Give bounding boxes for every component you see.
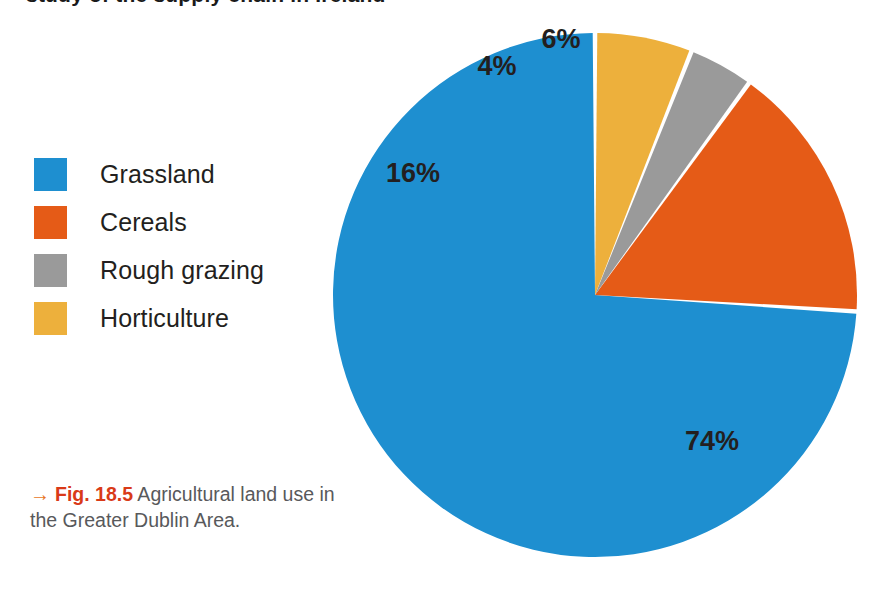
legend-swatch-rough-grazing (34, 254, 67, 287)
caption-arrow-icon: → (30, 483, 50, 505)
legend-label-rough-grazing: Rough grazing (100, 256, 264, 285)
caption-figure-number: Fig. 18.5 (55, 483, 133, 505)
legend-item-grassland[interactable]: Grassland (34, 152, 324, 196)
legend-swatch-horticulture (34, 302, 67, 335)
legend-swatch-cereals (34, 206, 67, 239)
chart-legend: Grassland Cereals Rough grazing Horticul… (34, 152, 324, 344)
legend-label-cereals: Cereals (100, 208, 187, 237)
slice-value-label-rough-grazing: 4% (477, 51, 516, 81)
legend-item-horticulture[interactable]: Horticulture (34, 296, 324, 340)
legend-swatch-grassland (34, 158, 67, 191)
figure-caption: →Fig. 18.5 Agricultural land use in the … (30, 481, 360, 533)
legend-label-horticulture: Horticulture (100, 304, 229, 333)
slice-value-label-horticulture: 6% (541, 24, 580, 54)
legend-item-rough-grazing[interactable]: Rough grazing (34, 248, 324, 292)
legend-item-cereals[interactable]: Cereals (34, 200, 324, 244)
slice-value-label-grassland: 74% (685, 426, 739, 456)
slice-value-label-cereals: 16% (386, 158, 440, 188)
pie-slices (333, 33, 857, 557)
legend-label-grassland: Grassland (100, 160, 215, 189)
